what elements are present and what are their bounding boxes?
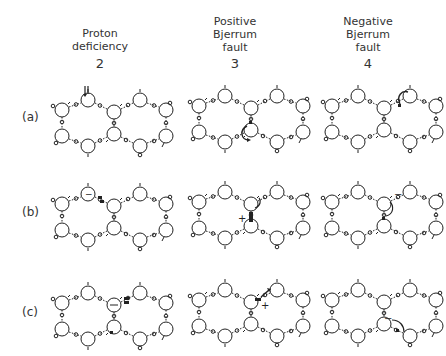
diagram-proton-deficiency-a <box>52 92 176 158</box>
minus-sign: − <box>384 313 392 324</box>
diagram-positive-bjerrum-b: + <box>189 184 313 250</box>
diagram-positive-bjerrum-a <box>189 88 313 154</box>
header-line: Bjerrum <box>333 28 403 41</box>
diagram-positive-bjerrum-c: + <box>189 282 313 348</box>
header-line: deficiency <box>65 40 135 53</box>
diagram-proton-deficiency-b: − <box>52 186 176 252</box>
header-line: Proton <box>65 27 135 40</box>
diagram-proton-deficiency-c <box>52 285 176 351</box>
row-label-b: (b) <box>22 205 39 219</box>
diagram-negative-bjerrum-c: − <box>322 282 446 348</box>
column-number: 2 <box>85 56 115 71</box>
header-line: fault <box>333 41 403 54</box>
header-line: fault <box>200 41 270 54</box>
header-line: Bjerrum <box>200 28 270 41</box>
row-label-a: (a) <box>22 110 39 124</box>
column-header-negative-bjerrum-fault: Negative Bjerrum fault <box>333 15 403 54</box>
column-header-positive-bjerrum-fault: Positive Bjerrum fault <box>200 15 270 54</box>
column-header-proton-deficiency: Proton deficiency <box>65 27 135 53</box>
plus-sign: + <box>261 300 269 311</box>
column-number: 4 <box>353 56 383 71</box>
column-number: 3 <box>220 56 250 71</box>
minus-sign: − <box>394 189 402 200</box>
header-line: Positive <box>200 15 270 28</box>
diagram-negative-bjerrum-a <box>322 88 446 154</box>
header-line: Negative <box>333 15 403 28</box>
diagram-negative-bjerrum-b: − <box>322 184 446 250</box>
curved-arrow-icon <box>261 290 269 297</box>
plus-sign: + <box>238 213 246 224</box>
minus-sign: − <box>85 189 93 199</box>
row-label-c: (c) <box>22 305 38 319</box>
